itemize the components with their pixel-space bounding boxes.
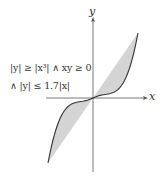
region-diagram: y x |y| ≥ |x³| ∧ xy ≥ 0 ∧ |y| ≤ 1.7|x| [0, 0, 161, 179]
y-axis-label: y [89, 5, 95, 18]
x-axis-label: x [149, 90, 155, 103]
condition-line-2: ∧ |y| ≤ 1.7|x| [10, 80, 70, 91]
shaded-region-q1 [93, 33, 138, 98]
condition-line-1: |y| ≥ |x³| ∧ xy ≥ 0 [10, 62, 91, 73]
shaded-region-q3 [48, 98, 93, 163]
